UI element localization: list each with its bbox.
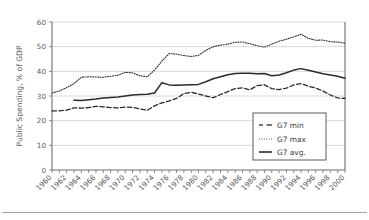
y-tick-label: 10 xyxy=(37,141,47,150)
chart-legend[interactable]: G7 min G7 max G7 avg. xyxy=(253,113,326,160)
y-tick-label: 20 xyxy=(37,116,47,125)
public-spending-chart: 0102030405060 19601962196419661968197019… xyxy=(0,0,369,220)
y-tick-label: 60 xyxy=(37,18,47,27)
y-axis-title: Public Spending, % of GDP xyxy=(15,45,24,146)
legend-label-g7-max: G7 max xyxy=(277,135,307,144)
legend-label-g7-avg: G7 avg. xyxy=(277,148,306,157)
y-tick-label: 40 xyxy=(37,67,47,76)
legend-label-g7-min: G7 min xyxy=(277,121,304,130)
y-tick-label: 50 xyxy=(37,42,47,51)
y-tick-label: 30 xyxy=(37,92,47,101)
x-axis-ticks xyxy=(52,170,345,173)
